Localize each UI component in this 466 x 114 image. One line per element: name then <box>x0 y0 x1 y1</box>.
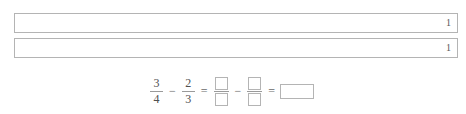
equals-sign-2: = <box>268 85 275 97</box>
fraction-blank-1-numerator-input[interactable] <box>215 77 228 90</box>
fraction-rule <box>247 91 262 92</box>
fraction-two-thirds-denominator: 3 <box>184 93 193 106</box>
fraction-two-thirds-numerator: 2 <box>184 77 193 90</box>
fraction-blank-1-denominator-input[interactable] <box>215 93 228 106</box>
minus-operator-1: − <box>169 85 176 97</box>
fraction-three-fourths: 3 4 <box>150 77 163 106</box>
fraction-three-fourths-numerator: 3 <box>152 77 161 90</box>
fraction-bar-bottom[interactable]: 1 <box>14 38 458 58</box>
fraction-blank-2-denominator-input[interactable] <box>248 93 261 106</box>
fraction-blank-1 <box>214 77 229 106</box>
equation-row: 3 4 − 2 3 = − = <box>148 77 314 106</box>
fraction-bar-top-label: 1 <box>446 18 451 28</box>
answer-input-box[interactable] <box>280 84 314 99</box>
fraction-blank-2-numerator-input[interactable] <box>248 77 261 90</box>
fraction-blank-2 <box>247 77 262 106</box>
minus-operator-2: − <box>235 85 242 97</box>
equals-sign-1: = <box>201 85 208 97</box>
fraction-bar-bottom-label: 1 <box>446 43 451 53</box>
fraction-two-thirds: 2 3 <box>182 77 195 106</box>
fraction-rule <box>214 91 229 92</box>
fraction-equation: 3 4 − 2 3 = − = <box>0 68 466 114</box>
fraction-bar-top[interactable]: 1 <box>14 13 458 33</box>
fraction-three-fourths-denominator: 4 <box>152 93 161 106</box>
